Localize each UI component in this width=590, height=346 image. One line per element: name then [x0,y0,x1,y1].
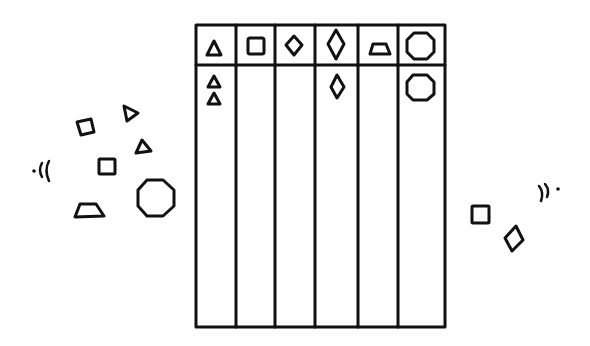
trapezoid-icon [75,204,104,217]
triangle-icon [124,106,138,121]
sound-mark-right-icon [539,184,560,201]
diamond-icon [331,75,344,98]
octagon-icon [407,33,434,59]
triangle-icon [136,140,151,153]
sorting-table [196,25,445,327]
octagon-icon [138,180,174,216]
sorting-diagram [0,0,590,346]
square-icon [248,38,264,54]
triangle-icon [208,93,220,104]
diamond-icon [505,226,523,251]
sound-mark-left-icon [32,161,49,181]
trapezoid-icon [370,44,390,54]
triangle-icon [208,76,220,87]
triangle-icon [207,41,221,55]
header-row [207,30,434,59]
square-icon [99,159,115,174]
tall-diamond-icon [328,30,344,59]
square-icon [472,206,489,223]
sorted-shapes [208,75,434,104]
square-icon [77,119,94,135]
table-border [196,25,445,327]
right-loose-shapes [472,206,523,251]
left-loose-shapes [75,106,174,217]
diamond-icon [286,36,302,55]
octagon-icon [407,75,434,100]
